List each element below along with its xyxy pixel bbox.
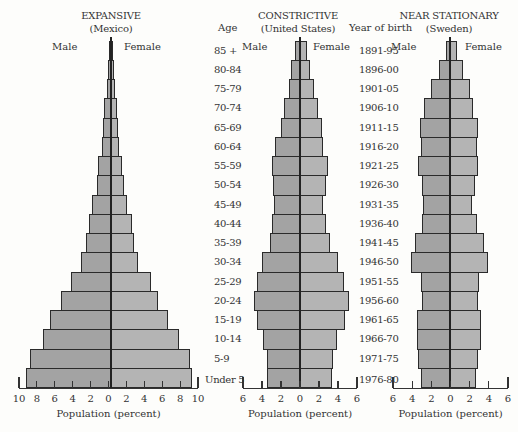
- x-axis-tick: [488, 381, 489, 388]
- male-bar: [272, 156, 300, 176]
- x-axis-tick: [450, 381, 451, 388]
- x-axis-tick: [280, 381, 281, 388]
- male-bar: [424, 98, 450, 118]
- male-bar: [272, 214, 300, 234]
- male-bar: [81, 252, 111, 272]
- age-header: Age: [218, 22, 238, 33]
- x-tick-label: 6: [390, 393, 396, 404]
- x-axis-tick: [337, 381, 338, 388]
- female-bar: [450, 156, 478, 176]
- male-bar: [418, 156, 450, 176]
- female-bar: [111, 195, 127, 215]
- male-bar: [431, 79, 450, 99]
- female-bar: [450, 195, 472, 215]
- chart-subtitle: (Mexico): [51, 22, 171, 35]
- male-bar: [26, 368, 111, 388]
- male-bar: [273, 175, 300, 195]
- female-bar: [300, 156, 328, 176]
- male-bar: [257, 272, 300, 292]
- male-bar: [267, 368, 300, 388]
- x-axis-tick: [126, 381, 127, 388]
- x-axis-title: Population (percent): [248, 408, 352, 419]
- male-bar: [254, 291, 300, 311]
- chart-title-text: CONSTRICTIVE: [238, 9, 358, 22]
- female-bar: [450, 329, 481, 349]
- birth-cohort-label: 1936-40: [359, 218, 398, 229]
- male-bar: [422, 175, 450, 195]
- x-tick-label: 2: [87, 393, 93, 404]
- x-tick-label: 4: [409, 393, 415, 404]
- female-bar: [111, 310, 168, 330]
- male-bar: [289, 79, 300, 99]
- male-bar: [97, 175, 111, 195]
- male-bar: [281, 118, 300, 138]
- male-bar: [423, 195, 450, 215]
- x-axis-tick: [469, 381, 470, 388]
- x-axis-line: [393, 388, 508, 389]
- birth-cohort-label: 1926-30: [359, 179, 398, 190]
- female-bar: [300, 195, 323, 215]
- birth-cohort-label: 1946-50: [359, 256, 398, 267]
- age-group-label: 50-54: [214, 179, 241, 190]
- female-bar: [450, 252, 488, 272]
- male-bar: [257, 310, 300, 330]
- x-tick-label: 2: [278, 393, 284, 404]
- age-group-label: 80-84: [214, 64, 241, 75]
- x-axis-tick: [162, 381, 163, 388]
- male-bar: [417, 329, 450, 349]
- female-bar: [300, 98, 318, 118]
- birth-cohort-label: 1941-45: [359, 237, 398, 248]
- age-group-label: 60-64: [214, 141, 241, 152]
- female-bar: [300, 233, 330, 253]
- female-bar: [300, 137, 323, 157]
- x-tick-label: 6: [240, 393, 246, 404]
- female-bar: [450, 233, 484, 253]
- female-bar: [111, 98, 117, 118]
- x-tick-label: 6: [505, 393, 511, 404]
- chart-title: EXPANSIVE(Mexico): [51, 9, 171, 35]
- female-bar: [111, 272, 151, 292]
- male-bar: [267, 349, 300, 369]
- birth-cohort-label: 1911-15: [359, 122, 398, 133]
- birth-cohort-label: 1956-60: [359, 295, 398, 306]
- female-bar: [300, 329, 337, 349]
- female-bar: [111, 349, 190, 369]
- age-group-label: 65-69: [214, 122, 241, 133]
- x-axis-title: Population (percent): [56, 408, 160, 419]
- x-axis-tick: [197, 377, 198, 388]
- male-bar: [61, 291, 111, 311]
- x-tick-label: 4: [335, 393, 341, 404]
- male-label: Male: [52, 41, 77, 52]
- center-axis-line: [449, 37, 450, 389]
- x-tick-label: 4: [486, 393, 492, 404]
- x-tick-label: 10: [13, 393, 26, 404]
- x-tick-label: 6: [159, 393, 165, 404]
- birth-cohort-label: 1966-70: [359, 333, 398, 344]
- female-bar: [300, 175, 326, 195]
- female-bar: [111, 156, 122, 176]
- male-bar: [86, 233, 111, 253]
- x-axis-line: [19, 388, 198, 389]
- x-axis-tick: [108, 381, 109, 388]
- x-tick-label: 6: [354, 393, 360, 404]
- x-tick-label: 2: [428, 393, 434, 404]
- male-bar: [89, 214, 111, 234]
- male-bar: [421, 368, 450, 388]
- female-label: Female: [465, 41, 502, 52]
- male-bar: [421, 137, 450, 157]
- center-axis-line: [299, 37, 300, 389]
- female-bar: [450, 60, 463, 80]
- birth-cohort-label: 1896-00: [359, 64, 398, 75]
- male-bar: [71, 272, 111, 292]
- female-bar: [450, 291, 478, 311]
- x-tick-label: 4: [70, 393, 76, 404]
- female-bar: [450, 79, 470, 99]
- male-bar: [422, 214, 450, 234]
- year-of-birth-header: Year of birth: [349, 22, 412, 33]
- female-bar: [450, 368, 476, 388]
- male-bar: [92, 195, 111, 215]
- female-bar: [111, 118, 118, 138]
- x-axis-tick: [144, 381, 145, 388]
- age-group-label: 25-29: [214, 276, 241, 287]
- male-bar: [263, 329, 300, 349]
